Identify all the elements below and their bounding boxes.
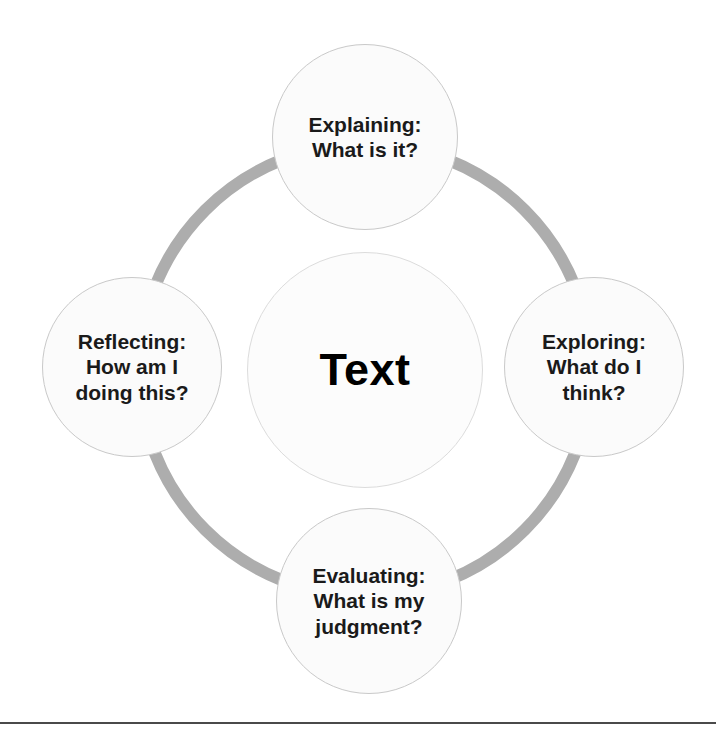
node-reflecting[interactable]: Reflecting: How am I doing this? [42, 277, 222, 457]
node-explaining-label: Explaining: What is it? [302, 112, 427, 162]
node-exploring[interactable]: Exploring: What do I think? [504, 277, 684, 457]
footer-divider [0, 722, 716, 724]
center-node[interactable]: Text [247, 252, 483, 488]
diagram-canvas: Explaining: What is it? Exploring: What … [0, 0, 716, 732]
node-explaining[interactable]: Explaining: What is it? [272, 44, 458, 230]
cycle-diagram: Explaining: What is it? Exploring: What … [0, 0, 716, 712]
node-evaluating[interactable]: Evaluating: What is my judgment? [276, 508, 462, 694]
node-exploring-label: Exploring: What do I think? [536, 329, 652, 405]
center-node-label: Text [319, 344, 410, 396]
node-reflecting-label: Reflecting: How am I doing this? [69, 329, 194, 405]
node-evaluating-label: Evaluating: What is my judgment? [306, 563, 431, 639]
